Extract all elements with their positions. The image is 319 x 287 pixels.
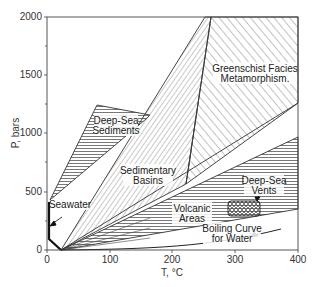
x-tick-0: 0 (44, 254, 50, 265)
svg-text:Basins: Basins (133, 175, 163, 186)
y-tick-0: 0 (36, 244, 42, 255)
x-axis-title: T, °C (161, 267, 183, 278)
x-tick-400: 400 (290, 254, 307, 265)
x-tick-200: 200 (164, 254, 181, 265)
phase-diagram: 2000 1500 1000 500 0 0 100 200 300 400 T… (0, 0, 319, 287)
y-tick-500: 500 (25, 186, 42, 197)
region-deep-sea-vents (228, 201, 260, 216)
svg-text:Metamorphism.: Metamorphism. (221, 73, 290, 84)
svg-text:for Water: for Water (212, 233, 253, 244)
y-tick-1500: 1500 (20, 69, 43, 80)
label-deep-sea-vents: Deep-Sea Vents (241, 174, 286, 196)
svg-text:Sediments: Sediments (92, 125, 139, 136)
y-tick-2000: 2000 (20, 11, 43, 22)
svg-text:Areas: Areas (179, 213, 205, 224)
label-sedimentary-basins: Sedimentary Basins (120, 164, 176, 186)
label-boiling-curve: Boiling Curve for Water (202, 222, 262, 244)
svg-text:Seawater: Seawater (49, 199, 92, 210)
label-seawater: Seawater (49, 199, 92, 210)
y-axis-title: P, bars (10, 118, 21, 148)
svg-text:Vents: Vents (251, 185, 276, 196)
x-tick-100: 100 (102, 254, 119, 265)
label-deep-sea-sediments: Deep-Sea Sediments (92, 114, 139, 136)
y-tick-1000: 1000 (20, 127, 43, 138)
label-greenschist: Greenschist Facies Metamorphism. (212, 62, 298, 84)
seawater-arrow-icon (50, 217, 62, 226)
label-volcanic-areas: Volcanic Areas (172, 202, 212, 224)
x-tick-300: 300 (227, 254, 244, 265)
